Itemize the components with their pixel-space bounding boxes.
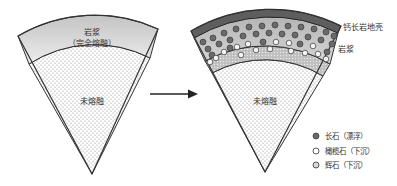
olivine-symbol-icon xyxy=(313,148,319,154)
legend-item-olivine: 橄榄石（下沉） xyxy=(313,146,374,156)
right-unmelted-core xyxy=(212,60,323,172)
crust-label: 钙长岩地壳 xyxy=(343,22,383,32)
pyroxene-symbol-icon xyxy=(313,162,319,168)
legend-item-pyroxene: 辉石（下沉） xyxy=(313,161,367,170)
svg-text:辉石（下沉）: 辉石（下沉） xyxy=(325,161,367,170)
left-core-label: 未熔融 xyxy=(80,96,104,106)
legend-item-feldspar: 长石（漂浮） xyxy=(313,131,367,141)
magma-ocean-diagram: 岩浆 （完全熔融） 未熔融 xyxy=(0,0,397,186)
legend: 长石（漂浮） 橄榄石（下沉） 辉石（下沉） xyxy=(313,131,374,170)
right-magma-label: 岩浆 xyxy=(338,44,354,54)
right-core-label: 未熔融 xyxy=(253,96,277,106)
svg-text:长石（漂浮）: 长石（漂浮） xyxy=(325,131,367,141)
transition-arrow xyxy=(150,90,198,99)
svg-text:橄榄石（下沉）: 橄榄石（下沉） xyxy=(325,146,374,156)
left-magma-label: 岩浆 xyxy=(84,27,100,37)
left-unmelted-core xyxy=(29,45,150,174)
left-magma-sublabel: （完全熔融） xyxy=(68,38,116,48)
left-sector: 岩浆 （完全熔融） 未熔融 xyxy=(18,15,158,174)
feldspar-symbol-icon xyxy=(313,133,319,139)
